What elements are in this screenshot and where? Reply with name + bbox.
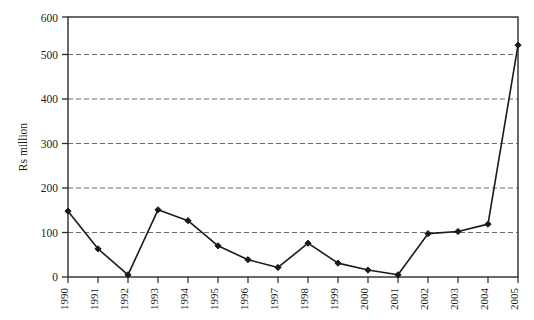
- x-tick-label-2001: 2001: [388, 288, 400, 310]
- x-tick-label-2005: 2005: [508, 288, 520, 311]
- x-tick-label-1999: 1999: [328, 288, 340, 311]
- chart-background: [0, 0, 534, 320]
- y-tick-label-600: 600: [41, 12, 59, 24]
- y-tick-label-200: 200: [41, 182, 59, 194]
- x-tick-label-1990: 1990: [58, 288, 70, 311]
- y-axis-title: Rs million: [17, 123, 29, 171]
- y-tick-label-400: 400: [41, 93, 59, 105]
- x-tick-label-2000: 2000: [358, 288, 370, 311]
- y-tick-label-0: 0: [52, 271, 58, 283]
- y-tick-label-500: 500: [41, 49, 59, 61]
- x-tick-label-1991: 1991: [88, 288, 100, 310]
- x-tick-label-2004: 2004: [478, 288, 490, 311]
- chart-canvas: 0 100 200 300 400 500 600 Rs million: [0, 0, 534, 320]
- x-tick-label-1994: 1994: [178, 288, 190, 311]
- x-tick-label-1997: 1997: [268, 288, 280, 311]
- x-tick-label-1992: 1992: [118, 288, 130, 310]
- x-tick-label-1996: 1996: [238, 288, 250, 311]
- line-chart: 0 100 200 300 400 500 600 Rs million: [0, 0, 534, 320]
- x-tick-label-1998: 1998: [298, 288, 310, 311]
- x-tick-label-2003: 2003: [448, 288, 460, 311]
- x-tick-label-1995: 1995: [208, 288, 220, 311]
- x-tick-label-2002: 2002: [418, 288, 430, 310]
- y-tick-label-100: 100: [41, 227, 59, 239]
- x-tick-label-1993: 1993: [148, 288, 160, 311]
- y-tick-label-300: 300: [41, 138, 59, 150]
